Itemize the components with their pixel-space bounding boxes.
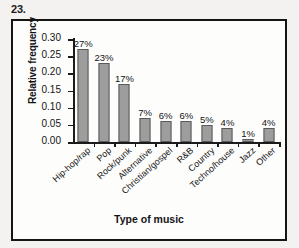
- bar-slot: 4%: [217, 39, 238, 142]
- y-tick: 0.00: [68, 142, 73, 144]
- bar-slot: 1%: [238, 39, 259, 142]
- y-tick-label: 0.00: [35, 135, 61, 146]
- y-tick-label: 0.30: [35, 32, 61, 43]
- bar-slot: 23%: [94, 39, 115, 142]
- y-tick-label: 0.05: [35, 118, 61, 129]
- y-tick-label: 0.10: [35, 101, 61, 112]
- bar-value-label: 4%: [221, 117, 235, 128]
- bar: 27%: [78, 49, 89, 142]
- figure-frame: Relative frequency 0.000.050.100.150.200…: [11, 19, 287, 241]
- bar-value-label: 27%: [74, 38, 93, 49]
- y-tick-label: 0.20: [35, 66, 61, 77]
- bar-slot: 7%: [135, 39, 156, 142]
- bar-value-label: 17%: [115, 73, 134, 84]
- bar-slot: 27%: [73, 39, 94, 142]
- bar-value-label: 23%: [94, 52, 113, 63]
- problem-number: 23.: [11, 3, 26, 15]
- x-axis-title: Type of music: [13, 213, 285, 225]
- y-axis-title: Relative frequency: [27, 9, 38, 113]
- bar-value-label: 7%: [138, 107, 152, 118]
- y-tick-label: 0.25: [35, 49, 61, 60]
- y-tick-label: 0.15: [35, 84, 61, 95]
- bar: 23%: [98, 63, 109, 142]
- plot-area: 0.000.050.100.150.200.250.30 27%23%17%7%…: [73, 39, 279, 142]
